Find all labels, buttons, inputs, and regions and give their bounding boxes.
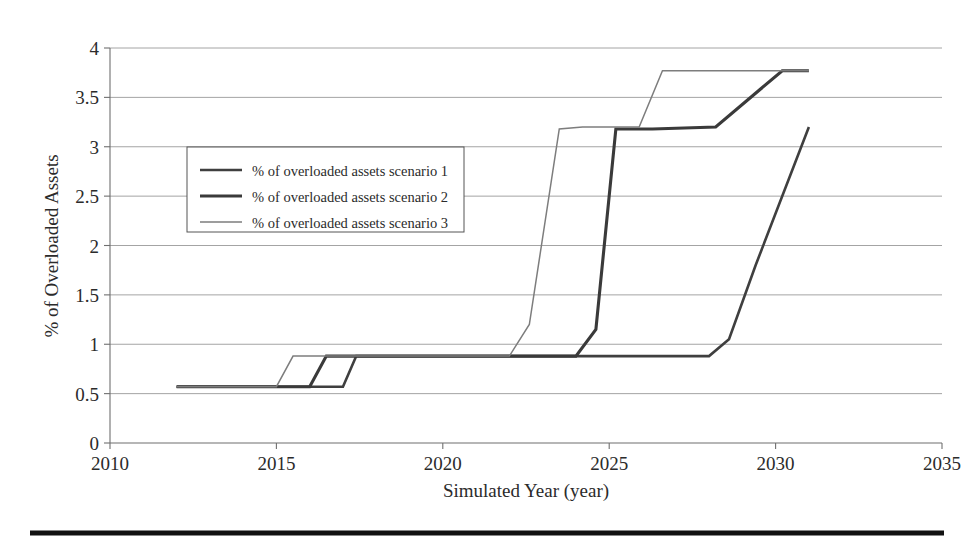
y-tick-label: 4 — [90, 38, 100, 59]
x-tick-label: 2030 — [757, 453, 795, 474]
y-tick-label: 3 — [90, 137, 100, 158]
y-tick-label: 2.5 — [75, 186, 99, 207]
legend-label-scenario-3: % of overloaded assets scenario 3 — [252, 215, 448, 231]
y-tick-labels-group: 00.511.522.533.54 — [75, 38, 110, 454]
y-axis-title: % of Overloaded Assets — [41, 154, 62, 337]
x-tick-label: 2015 — [257, 453, 295, 474]
y-tick-label: 3.5 — [75, 87, 99, 108]
x-tick-label: 2035 — [923, 453, 961, 474]
y-tick-label: 1.5 — [75, 285, 99, 306]
line-chart: 00.511.522.533.54 2010201520202025203020… — [0, 0, 974, 544]
y-tick-label: 0 — [90, 433, 100, 454]
x-tick-label: 2010 — [91, 453, 129, 474]
chart-legend: % of overloaded assets scenario 1% of ov… — [187, 147, 464, 232]
chart-figure: 00.511.522.533.54 2010201520202025203020… — [0, 0, 974, 544]
legend-label-scenario-1: % of overloaded assets scenario 1 — [252, 163, 448, 179]
y-tick-label: 2 — [90, 236, 100, 257]
y-tick-label: 1 — [90, 334, 100, 355]
y-tick-label: 0.5 — [75, 384, 99, 405]
legend-label-scenario-2: % of overloaded assets scenario 2 — [252, 189, 448, 205]
x-tick-label: 2025 — [590, 453, 628, 474]
x-axis-title: Simulated Year (year) — [443, 480, 609, 502]
x-tick-labels-group: 201020152020202520302035 — [91, 443, 961, 474]
x-tick-label: 2020 — [424, 453, 462, 474]
